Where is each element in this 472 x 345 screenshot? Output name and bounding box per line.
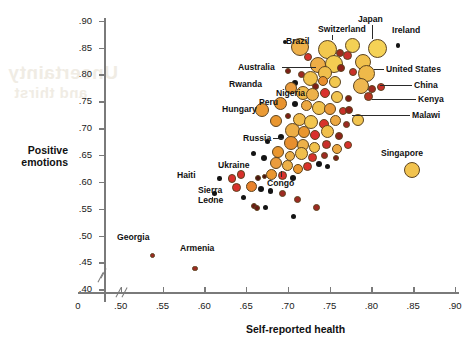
x-tick [413, 287, 414, 292]
y-tick [99, 236, 104, 237]
data-point-bubble [368, 39, 387, 58]
data-point-bubble [293, 164, 303, 174]
leader-line [374, 69, 384, 70]
point-label-china: China [414, 80, 438, 90]
point-label-georgia: Georgia [117, 232, 149, 242]
y-tick-label: .85 [62, 42, 92, 53]
data-point-bubble [282, 160, 293, 171]
data-point-dot [316, 161, 322, 167]
y-tick-label: .70 [62, 122, 92, 133]
data-point-bubble [255, 175, 261, 181]
x-tick-label: .55 [148, 300, 178, 311]
point-label-armenia: Armenia [180, 243, 214, 253]
data-point-bubble [404, 162, 420, 178]
point-label-australia: Australia [238, 62, 275, 72]
x-tick-label: .70 [273, 300, 303, 311]
point-label-japan: Japan [358, 14, 383, 24]
point-label-malawi: Malawi [412, 110, 440, 120]
data-point-dot [292, 101, 298, 107]
data-point-bubble [246, 181, 257, 192]
data-point-bubble [364, 92, 373, 101]
point-label-ukraine: Ukraine [218, 160, 250, 170]
data-point-bubble [270, 115, 282, 127]
x-tick-label: .85 [398, 300, 428, 311]
y-tick [99, 74, 104, 75]
leader-line [372, 99, 416, 100]
y-tick-label: .55 [62, 203, 92, 214]
point-label-singapore: Singapore [381, 148, 423, 158]
x-tick [204, 287, 205, 292]
data-point-bubble [349, 68, 357, 76]
data-point-bubble [309, 142, 320, 153]
data-point-bubble [345, 95, 352, 102]
data-point-dot [261, 155, 267, 161]
leader-line [352, 115, 410, 116]
point-label-hungary: Hungary [222, 104, 257, 114]
x-tick [455, 287, 456, 292]
data-point-bubble [343, 121, 350, 128]
y-tick-label: .40 [62, 283, 92, 294]
data-point-bubble [321, 125, 334, 138]
data-point-bubble [150, 253, 156, 259]
data-point-bubble [254, 205, 260, 211]
data-point-bubble [310, 130, 320, 140]
leader-line [282, 67, 316, 68]
point-label-rwanda: Rwanda [229, 79, 262, 89]
data-point-bubble [272, 146, 284, 158]
y-axis-line [104, 18, 106, 302]
data-point-bubble [285, 68, 291, 74]
data-point-dot [241, 195, 246, 200]
data-point-bubble [295, 147, 308, 160]
data-point-bubble [285, 113, 291, 119]
x-tick-label: .90 [440, 300, 470, 311]
y-tick [99, 155, 104, 156]
data-point-bubble [331, 91, 343, 103]
y-tick-label: .50 [62, 230, 92, 241]
data-point-bubble [294, 196, 301, 203]
point-label-haiti: Haiti [177, 170, 196, 180]
y-tick-label: .90 [62, 15, 92, 26]
data-point-bubble [192, 266, 198, 272]
data-point-bubble [344, 141, 352, 149]
data-point-bubble [337, 64, 345, 72]
x-axis-title: Self-reported health [246, 323, 345, 335]
x-tick-label: .75 [315, 300, 345, 311]
data-point-bubble [298, 126, 310, 138]
x-tick [246, 287, 247, 292]
x-tick [163, 287, 164, 292]
data-point-bubble [332, 144, 342, 154]
y-tick [99, 262, 104, 263]
y-axis-title-line1: Positive [6, 144, 68, 156]
y-tick-label: .45 [62, 256, 92, 267]
leader-line [372, 25, 373, 39]
x-tick [371, 287, 372, 292]
data-point-dot [258, 186, 264, 192]
data-point-bubble [330, 115, 341, 126]
chart-canvas: Uncertainty and thirst BrazilSwitzerland… [0, 0, 472, 345]
x-tick-label: .50 [106, 300, 136, 311]
point-label-russia: Russia [243, 133, 271, 143]
data-point-dot [325, 164, 330, 169]
data-point-bubble [322, 140, 331, 149]
x-tick-label: .60 [189, 300, 219, 311]
y-tick-label: .60 [62, 176, 92, 187]
leader-line [332, 35, 333, 40]
y-tick [99, 21, 104, 22]
leader-line [380, 85, 412, 86]
data-point-bubble [324, 103, 336, 115]
data-point-dot [217, 176, 221, 180]
x-axis-line [78, 292, 459, 294]
x-tick-label: .80 [356, 300, 386, 311]
y-tick-label: .75 [62, 95, 92, 106]
point-label-ireland: Ireland [392, 25, 420, 35]
data-point-bubble [318, 76, 328, 86]
y-tick [99, 182, 104, 183]
point-label-brazil: Brazil [286, 36, 309, 46]
data-point-bubble [329, 76, 341, 88]
point-label-sierra-leone: Sierra Leone [198, 186, 232, 205]
x-tick [330, 287, 331, 292]
data-point-bubble [308, 153, 317, 162]
data-point-dot [268, 188, 274, 194]
data-point-bubble [313, 204, 320, 211]
leader-line [273, 138, 283, 139]
